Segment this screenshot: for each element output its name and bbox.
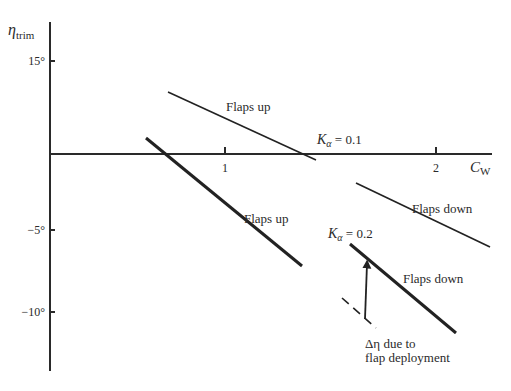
line-k02-flaps-up [146,138,302,266]
y-tick-label-15: 15° [28,54,45,68]
line-k02-flaps-up-extension [342,298,376,328]
x-tick-label-2: 2 [433,161,439,175]
y-axis-label: ηtrim [8,21,35,41]
label-flaps-up-k01: Flaps up [226,99,270,114]
label-flaps-down-k02: Flaps down [403,271,464,286]
trim-chart: ηtrim 15° −5° −10° 1 2 CW Flaps up Kα = … [0,0,511,391]
label-flaps-down-k01: Flaps down [412,201,473,216]
y-tick-label-m10: −10° [21,305,45,319]
x-axis-label: CW [470,159,491,177]
label-k-alpha-02: Kα = 0.2 [327,226,373,243]
delta-eta-arrow [365,264,367,319]
label-delta-eta-line1: Δη due to [365,336,416,351]
label-delta-eta-line2: flap deployment [365,350,450,365]
x-tick-label-1: 1 [222,161,228,175]
label-k-alpha-01: Kα = 0.1 [316,132,362,149]
y-tick-label-m5: −5° [27,223,45,237]
label-flaps-up-k02: Flaps up [244,211,288,226]
